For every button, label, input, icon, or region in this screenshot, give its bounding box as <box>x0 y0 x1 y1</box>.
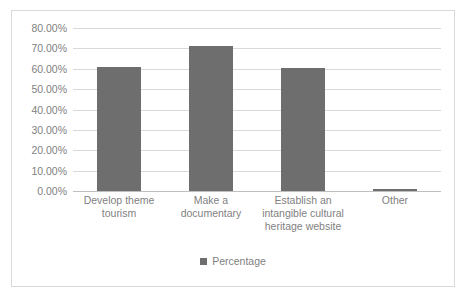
value-axis-tick-label: 30.00% <box>31 125 67 136</box>
category-label-2: Make adocumentary <box>165 194 257 233</box>
value-axis-tick-label: 80.00% <box>31 23 67 34</box>
bar-slot <box>165 28 257 191</box>
bar-slot <box>73 28 165 191</box>
chart-frame: 80.00%70.00%60.00%50.00%40.00%30.00%20.0… <box>11 10 455 287</box>
value-axis-tick-label: 40.00% <box>31 104 67 115</box>
category-label-4: Other <box>349 194 441 233</box>
value-axis-tick-label: 20.00% <box>31 145 67 156</box>
plot-area: 80.00%70.00%60.00%50.00%40.00%30.00%20.0… <box>73 28 441 191</box>
category-label-1: Develop themetourism <box>73 194 165 233</box>
bar-series-percentage <box>73 28 441 191</box>
bar-slot <box>257 28 349 191</box>
value-axis-tick-label: 60.00% <box>31 64 67 75</box>
legend-item-label: Percentage <box>212 256 266 267</box>
bar-slot <box>349 28 441 191</box>
bar-1[interactable] <box>97 67 141 191</box>
category-axis: Develop themetourismMake adocumentaryEst… <box>73 194 441 233</box>
bar-3[interactable] <box>281 68 325 191</box>
value-axis-tick-label: 0.00% <box>37 186 67 197</box>
legend-square-icon <box>200 258 207 265</box>
bar-2[interactable] <box>189 46 233 191</box>
value-axis-tick-label: 50.00% <box>31 84 67 95</box>
chart-legend: Percentage <box>12 256 454 267</box>
value-axis-tick-label: 70.00% <box>31 43 67 54</box>
legend-item-percentage[interactable]: Percentage <box>200 256 266 267</box>
bar-4[interactable] <box>373 189 417 191</box>
value-axis-tick-label: 10.00% <box>31 165 67 176</box>
gridline-0 <box>73 191 441 192</box>
category-label-3: Establish anintangible culturalheritage … <box>257 194 349 233</box>
